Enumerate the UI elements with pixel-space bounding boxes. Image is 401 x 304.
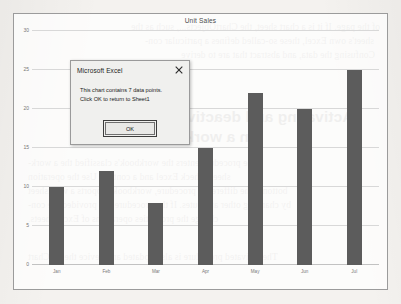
dialog-button-row: OK: [71, 122, 189, 144]
chart-bar-slot: May: [230, 31, 280, 265]
chart-bar[interactable]: [198, 148, 213, 265]
y-axis-tick-label: 10: [23, 183, 29, 189]
ok-button[interactable]: OK: [105, 122, 155, 135]
chart-bar[interactable]: [248, 93, 263, 265]
dialog-message-line: This chart contains 7 data points.: [80, 86, 181, 95]
y-axis-tick-label: 5: [26, 222, 29, 228]
chart-bar[interactable]: [148, 203, 163, 265]
x-axis-tick-label: Jan: [53, 269, 60, 274]
dialog-message: This chart contains 7 data points. Click…: [71, 79, 189, 122]
chart-bar[interactable]: [347, 70, 362, 265]
dialog-title: Microsoft Excel: [77, 67, 172, 74]
x-axis-tick-label: Apr: [202, 269, 209, 274]
chart-bar[interactable]: [297, 109, 312, 265]
x-axis-tick-label: Feb: [102, 269, 110, 274]
chart-bar[interactable]: [99, 171, 114, 265]
chart-bar[interactable]: [49, 187, 64, 265]
x-axis-tick-label: Jul: [351, 269, 357, 274]
dialog-titlebar: Microsoft Excel: [71, 61, 189, 79]
y-axis-tick-label: 30: [23, 27, 29, 33]
chart-bar-slot: Jun: [280, 31, 330, 265]
x-axis-tick-label: Jun: [301, 269, 308, 274]
x-axis-tick-label: Mar: [152, 269, 160, 274]
close-icon[interactable]: [172, 63, 186, 77]
dialog-message-line: Click OK to return to Sheet1: [80, 95, 181, 104]
chart-title: Unit Sales: [14, 17, 387, 24]
chart-bar-slot: Jul: [329, 31, 379, 265]
y-axis-tick-label: 15: [23, 144, 29, 150]
x-axis-tick-label: May: [251, 269, 260, 274]
y-axis-tick-label: 0: [26, 261, 29, 267]
excel-message-dialog[interactable]: Microsoft Excel This chart contains 7 da…: [70, 60, 190, 145]
y-axis-tick-label: 20: [23, 105, 29, 111]
y-axis-tick-label: 25: [23, 66, 29, 72]
chart-object[interactable]: Unit Sales 051015202530 JanFebMarAprMayJ…: [13, 13, 388, 290]
